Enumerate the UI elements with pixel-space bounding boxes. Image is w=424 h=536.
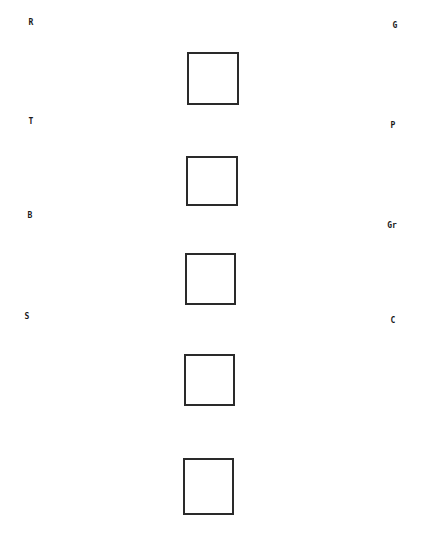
diagram-canvas: R T B S G P Gr C — [0, 0, 424, 536]
label-b: B — [28, 212, 33, 220]
empty-box-3 — [185, 253, 236, 305]
label-c: C — [391, 317, 396, 325]
label-s: S — [25, 313, 30, 321]
empty-box-2 — [186, 156, 238, 206]
label-t: T — [29, 118, 34, 126]
label-g: G — [393, 22, 398, 30]
empty-box-1 — [187, 52, 239, 105]
label-r: R — [29, 19, 34, 27]
empty-box-4 — [184, 354, 235, 406]
label-gr: Gr — [387, 222, 397, 230]
label-p: P — [391, 122, 396, 130]
empty-box-5 — [183, 458, 234, 515]
